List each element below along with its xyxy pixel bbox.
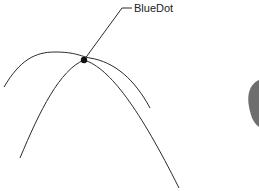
curve-steep	[20, 60, 179, 188]
blue-dot-point	[81, 57, 87, 63]
callout-leader-line	[84, 8, 132, 60]
blue-dot-label: BlueDot	[134, 2, 173, 14]
diagram-canvas: BlueDot	[0, 0, 259, 191]
partial-gray-shape	[248, 80, 259, 127]
